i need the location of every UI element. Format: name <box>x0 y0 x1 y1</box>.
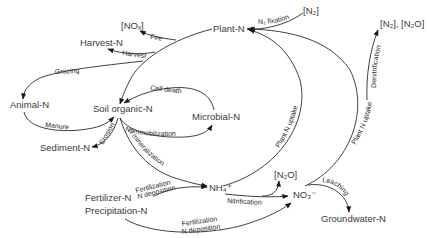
fertilizer-n-node: Fertilizer-N <box>85 192 132 203</box>
animal-n-node: Animal-N <box>10 99 49 110</box>
no3-node: NO₃⁻ <box>293 189 316 200</box>
manure-arrow <box>24 112 114 131</box>
n2-atmosphere-node: [N₂] <box>303 5 319 16</box>
grazing-arrow <box>23 61 143 99</box>
cell-death-label: Cell death <box>150 84 182 94</box>
microbial-n-node: Microbial-N <box>192 111 240 122</box>
soil-organic-n-node: Soil organic-N <box>93 103 153 114</box>
erosion-label: Erosion <box>98 121 116 145</box>
n2-n2o-denitrification-node: [N₂], [N₂O] <box>380 18 424 29</box>
nox-node: [NOₓ] <box>121 20 144 31</box>
n-fixation-label: N₂ fixation <box>258 13 290 25</box>
n2o-nitrification-node: [N₂O] <box>274 169 297 180</box>
groundwater-n-node: Groundwater-N <box>321 213 386 224</box>
svg-text:Plant N uptake: Plant N uptake <box>350 101 373 145</box>
sediment-n-node: Sediment-N <box>40 142 90 153</box>
fire-label: Fire <box>150 33 163 42</box>
plant-n-uptake-from-no3-arrow <box>249 29 358 186</box>
nitrification-label: Nitrification <box>227 197 262 206</box>
nh4-node: NH₄⁺ <box>209 182 232 193</box>
plant-n-uptake-from-nh4-arrow <box>223 30 302 186</box>
harvest-label: Harvest <box>122 49 147 59</box>
precipitation-n-node: Precipitation-N <box>85 205 147 216</box>
nitrogen-cycle-diagram: Plant-N [N₂] [NOₓ] Harvest-N Animal-N So… <box>0 0 429 238</box>
grazing-label: Grazing <box>55 67 80 76</box>
plant-n-uptake-label-2: Plant N uptake <box>350 101 373 145</box>
plant-to-soil-arrow <box>120 29 212 104</box>
harvest-n-node: Harvest-N <box>80 37 123 48</box>
nitrification-to-n2o-arrow <box>262 181 279 196</box>
plant-n-node: Plant-N <box>213 23 245 34</box>
svg-text:N₂ fixation: N₂ fixation <box>258 13 290 25</box>
